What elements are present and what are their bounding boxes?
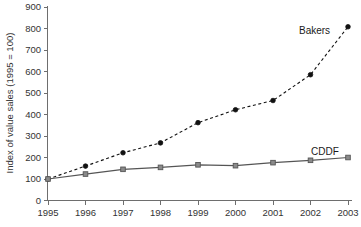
series-line-cddf bbox=[48, 158, 348, 180]
x-tick-label: 2002 bbox=[300, 207, 321, 218]
series-label-bakers: Bakers bbox=[299, 25, 330, 36]
y-axis: 0100200300400500600700800900 Index of va… bbox=[4, 1, 48, 206]
data-point-marker bbox=[158, 141, 163, 146]
data-series-layer bbox=[46, 24, 351, 181]
chart-plot-area: 0100200300400500600700800900 Index of va… bbox=[0, 0, 361, 227]
y-tick-label: 400 bbox=[25, 109, 41, 120]
y-tick-label: 100 bbox=[25, 173, 41, 184]
line-chart: 0100200300400500600700800900 Index of va… bbox=[0, 0, 361, 227]
data-point-marker bbox=[308, 158, 313, 163]
data-point-marker bbox=[271, 98, 276, 103]
data-point-marker bbox=[121, 167, 126, 172]
y-tick-label: 300 bbox=[25, 130, 41, 141]
y-tick-label: 600 bbox=[25, 66, 41, 77]
data-point-marker bbox=[46, 177, 51, 182]
x-tick-label: 2003 bbox=[337, 207, 358, 218]
data-point-marker bbox=[196, 163, 201, 168]
data-point-marker bbox=[233, 163, 238, 168]
x-tick-labels: 199519961997199819992000200120022003 bbox=[37, 207, 358, 218]
y-tick-marks bbox=[44, 7, 48, 201]
data-point-marker bbox=[346, 24, 351, 29]
x-tick-label: 2000 bbox=[225, 207, 246, 218]
x-tick-label: 1995 bbox=[37, 207, 58, 218]
y-tick-label: 0 bbox=[36, 195, 41, 206]
data-point-marker bbox=[308, 72, 313, 77]
x-tick-label: 1997 bbox=[112, 207, 133, 218]
y-tick-label: 800 bbox=[25, 23, 41, 34]
data-point-marker bbox=[158, 165, 163, 170]
x-tick-label: 1998 bbox=[150, 207, 171, 218]
series-label-cddf: CDDF bbox=[311, 146, 339, 157]
y-tick-label: 700 bbox=[25, 44, 41, 55]
data-point-marker bbox=[196, 120, 201, 125]
series-line-bakers bbox=[48, 27, 348, 179]
x-tick-label: 2001 bbox=[262, 207, 283, 218]
y-tick-label: 500 bbox=[25, 87, 41, 98]
data-point-marker bbox=[271, 160, 276, 165]
x-axis: 199519961997199819992000200120022003 bbox=[37, 201, 358, 219]
data-point-marker bbox=[83, 172, 88, 177]
x-tick-label: 1996 bbox=[75, 207, 96, 218]
y-tick-labels: 0100200300400500600700800900 bbox=[25, 1, 41, 206]
data-point-marker bbox=[83, 164, 88, 169]
y-axis-title: Index of value sales (1995 = 100) bbox=[4, 33, 15, 174]
data-point-marker bbox=[121, 150, 126, 155]
y-tick-label: 900 bbox=[25, 1, 41, 12]
x-tick-label: 1999 bbox=[187, 207, 208, 218]
data-point-marker bbox=[346, 155, 351, 160]
x-tick-marks bbox=[48, 201, 348, 205]
y-tick-label: 200 bbox=[25, 152, 41, 163]
data-point-marker bbox=[233, 107, 238, 112]
